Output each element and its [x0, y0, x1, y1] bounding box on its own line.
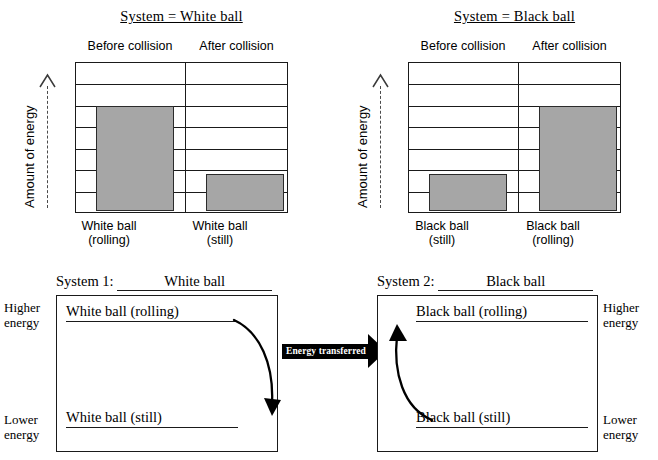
left-chart-title: System = White ball — [75, 8, 288, 25]
right-chart-caption-2: Black ball (rolling) — [499, 219, 607, 247]
energy-transferred-arrow: Energy transferred — [282, 334, 386, 368]
right-chart-axis-line — [380, 86, 381, 208]
right-chart-header-after: After collision — [518, 39, 621, 53]
gridline — [76, 84, 287, 85]
lower-energy-line-1: Lower — [603, 412, 637, 427]
system1-upper-level: White ball (rolling) — [66, 303, 238, 322]
lower-energy-line-2: energy — [4, 427, 39, 442]
system2-heading: System 2: Black ball — [377, 273, 593, 291]
higher-energy-line-2: energy — [603, 315, 638, 330]
system1-heading-fill: White ball — [117, 273, 272, 291]
system2-energy-arrow — [383, 316, 445, 428]
caption-line-2: (still) — [429, 233, 455, 247]
energy-transferred-label: Energy transferred — [282, 344, 369, 359]
lower-energy-line-1: Lower — [4, 412, 38, 427]
system2-heading-prefix: System 2: — [377, 273, 435, 289]
left-chart-plot-area — [75, 62, 288, 213]
left-chart-header-before: Before collision — [75, 39, 185, 53]
system2-heading-fill: Black ball — [438, 273, 593, 291]
left-chart-axis-label: Amount of energy — [22, 105, 37, 208]
chart-center-divider — [185, 63, 186, 212]
caption-line-2: (rolling) — [88, 233, 130, 247]
system2-lower-energy-label: Lower energy — [603, 412, 638, 442]
bar-before-collision — [429, 174, 507, 211]
system1-heading-prefix: System 1: — [56, 273, 114, 289]
right-chart-caption-1: Black ball (still) — [388, 219, 496, 247]
system1-heading: System 1: White ball — [56, 273, 272, 291]
left-chart-axis-line — [47, 86, 48, 208]
left-chart-header-after: After collision — [185, 39, 288, 53]
system1-lower-energy-label: Lower energy — [4, 412, 39, 442]
left-chart-caption-2: White ball (still) — [166, 219, 274, 247]
higher-energy-line-1: Higher — [603, 300, 639, 315]
higher-energy-line-1: Higher — [4, 300, 40, 315]
system1-energy-arrow — [228, 316, 290, 428]
lower-energy-line-2: energy — [603, 427, 638, 442]
caption-line-1: White ball — [82, 219, 137, 233]
system1-lower-level: White ball (still) — [66, 409, 238, 428]
system2-higher-energy-label: Higher energy — [603, 300, 639, 330]
right-chart-header-before: Before collision — [408, 39, 518, 53]
caption-line-1: Black ball — [526, 219, 580, 233]
caption-line-2: (still) — [207, 233, 233, 247]
right-chart-plot-area — [408, 62, 621, 213]
chart-center-divider — [518, 63, 519, 212]
caption-line-1: Black ball — [415, 219, 469, 233]
caption-line-1: White ball — [193, 219, 248, 233]
bar-before-collision — [96, 106, 174, 211]
system1-higher-energy-label: Higher energy — [4, 300, 40, 330]
right-chart-axis-label: Amount of energy — [355, 105, 370, 208]
caption-line-2: (rolling) — [532, 233, 574, 247]
bar-after-collision — [206, 174, 284, 211]
higher-energy-line-2: energy — [4, 315, 39, 330]
gridline — [409, 84, 620, 85]
left-chart-caption-1: White ball (rolling) — [55, 219, 163, 247]
bar-after-collision — [539, 106, 617, 211]
right-chart-axis-arrowhead — [372, 74, 389, 88]
right-chart-title: System = Black ball — [408, 8, 621, 25]
left-chart-axis-arrowhead — [39, 74, 56, 88]
